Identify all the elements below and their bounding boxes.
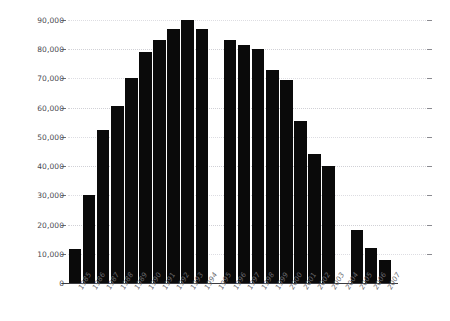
x-axis-tick-label: 1992 [175,271,191,291]
x-axis-tick-label: 2002 [316,271,332,291]
x-axis-tick-label: 1996 [232,271,248,291]
bar-chart: 010,00020,00030,00040,00050,00060,00070,… [0,0,450,321]
x-axis-tick-label: 1995 [217,271,233,291]
x-axis-tick-label: 2007 [386,271,402,291]
x-axis-tick-label: 2004 [344,271,360,291]
x-axis-tick-label: 2005 [358,271,374,291]
x-axis-tick-label: 1985 [77,271,93,291]
x-axis-tick-label: 1994 [203,271,219,291]
x-axis-labels: 1985198619871988198919901991199219931994… [0,0,450,321]
